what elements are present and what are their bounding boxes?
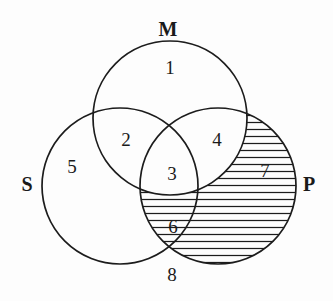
region-label-4: 4 [212, 129, 222, 150]
set-label-m: M [159, 18, 178, 40]
venn-diagram-canvas: M S P 1 2 3 4 5 6 7 8 [0, 0, 333, 301]
region-label-5: 5 [67, 156, 77, 177]
set-label-s: S [21, 173, 32, 195]
region-label-1: 1 [165, 57, 175, 78]
set-label-p: P [303, 173, 315, 195]
region-label-6: 6 [168, 216, 178, 237]
region-label-3: 3 [167, 163, 177, 184]
venn-diagram: M S P 1 2 3 4 5 6 7 8 [0, 0, 333, 301]
region-label-7: 7 [260, 160, 270, 181]
region-label-8: 8 [167, 264, 177, 285]
region-label-2: 2 [121, 129, 131, 150]
